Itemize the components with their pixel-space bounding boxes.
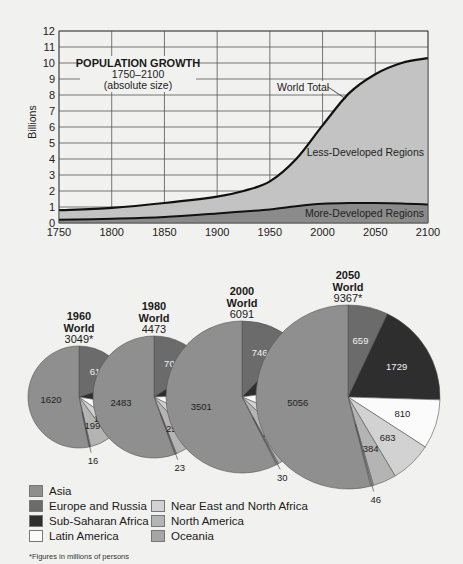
legend-swatch-europe-russia <box>29 500 43 512</box>
pie-slice-label: 16 <box>88 455 99 466</box>
legend-swatch-sub-saharan-africa <box>29 515 43 527</box>
footnote: *Figures in millions of persons <box>29 552 129 561</box>
legend-swatch-north-america <box>151 515 165 527</box>
legend-swatch-oceania <box>151 530 165 542</box>
pie-slice-label: 2483 <box>110 397 131 408</box>
pie-slice-label: 810 <box>395 408 411 419</box>
legend-label: Asia <box>49 485 71 497</box>
pie-total: 9367* <box>334 292 363 304</box>
pie-slice-label: 5056 <box>287 397 308 408</box>
legend-label: Europe and Russia <box>49 500 147 512</box>
legend-item-north-america: North America <box>151 514 244 528</box>
pie-slice-label: 3501 <box>191 401 212 412</box>
pie-year: 1960 <box>67 310 91 322</box>
pie-slice-label: 1620 <box>41 394 62 405</box>
legend-swatch-near-east-north-africa <box>151 500 165 512</box>
legend-item-asia: Asia <box>29 484 71 498</box>
legend-item-oceania: Oceania <box>151 529 214 543</box>
pie-slice-label: 1729 <box>386 361 407 372</box>
pie-2050: 65917298106833844650562050World9367* <box>256 269 440 505</box>
legend-label: Near East and North Africa <box>171 500 308 512</box>
legend-item-near-east-north-africa: Near East and North Africa <box>151 499 308 513</box>
legend-item-europe-russia: Europe and Russia <box>29 499 147 513</box>
legend-swatch-asia <box>29 485 43 497</box>
pie-slice-label: 30 <box>277 472 288 483</box>
legend-swatch-latin-america <box>29 530 43 542</box>
pie-slice-label: 384 <box>363 443 379 454</box>
pie-slice-label: 683 <box>380 432 396 443</box>
legend-label: North America <box>171 515 244 527</box>
legend-label: Latin America <box>49 530 119 542</box>
legend-item-latin-america: Latin America <box>29 529 119 543</box>
legend-label: Oceania <box>171 530 214 542</box>
regional-pie-charts: 6152272181541991616201960World3049*70838… <box>0 0 463 564</box>
pie-slice-label: 659 <box>353 335 369 346</box>
pie-year: 2000 <box>230 285 254 297</box>
legend-label: Sub-Saharan Africa <box>49 515 149 527</box>
pie-total: 3049* <box>65 333 94 345</box>
legend-item-sub-saharan-africa: Sub-Saharan Africa <box>29 514 149 528</box>
pie-total: 4473 <box>142 323 166 335</box>
pie-slice-label: 23 <box>174 462 185 473</box>
pie-slice-label: 46 <box>370 494 381 505</box>
pie-year: 2050 <box>336 269 360 281</box>
pie-year: 1980 <box>142 300 166 312</box>
pie-total: 6091 <box>230 308 254 320</box>
